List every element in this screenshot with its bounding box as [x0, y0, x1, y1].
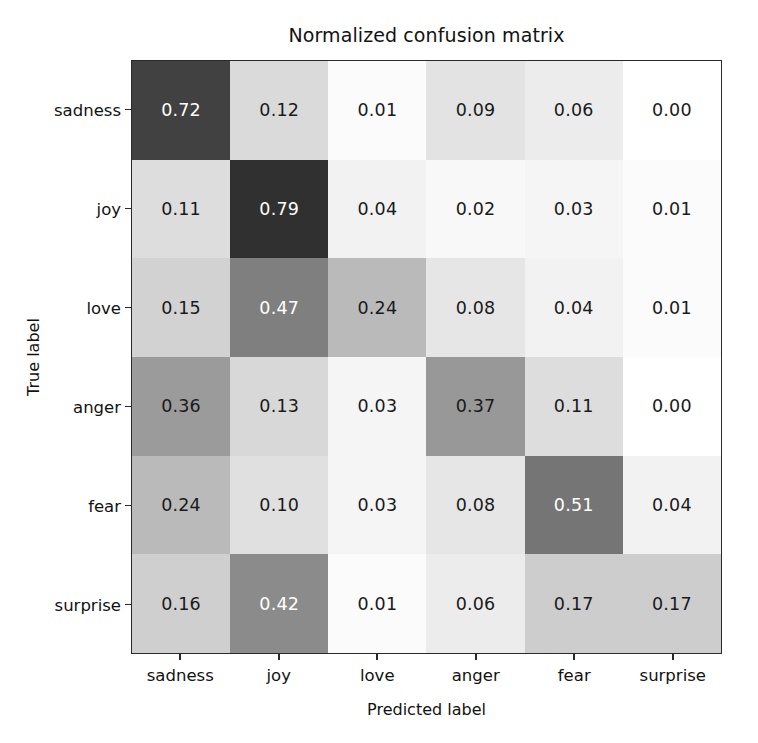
cell-value: 0.03	[358, 396, 398, 416]
cell-value: 0.02	[456, 199, 496, 219]
cell-value: 0.08	[456, 495, 496, 515]
x-tick-anger: anger	[427, 654, 526, 694]
x-tick-surprise: surprise	[624, 654, 723, 694]
cell-value: 0.04	[554, 298, 594, 318]
y-tick-label: surprise	[55, 595, 121, 614]
x-tick-mark	[179, 654, 181, 660]
cell-value: 0.42	[259, 594, 299, 614]
cell-value: 0.51	[554, 495, 594, 515]
x-tick-label: joy	[230, 666, 329, 685]
matrix-cell: 0.11	[525, 357, 623, 456]
cell-value: 0.16	[161, 594, 201, 614]
x-axis-label: Predicted label	[131, 700, 722, 719]
matrix-cell: 0.04	[623, 456, 721, 555]
x-tick-mark	[376, 654, 378, 660]
matrix-cell: 0.00	[623, 61, 721, 160]
plot-area: 0.720.120.010.090.060.000.110.790.040.02…	[131, 60, 722, 654]
cell-value: 0.01	[652, 298, 692, 318]
x-tick-sadness: sadness	[131, 654, 230, 694]
cell-value: 0.06	[456, 594, 496, 614]
cell-value: 0.03	[358, 495, 398, 515]
matrix-cell: 0.01	[623, 160, 721, 259]
matrix-cell: 0.06	[525, 61, 623, 160]
matrix-grid: 0.720.120.010.090.060.000.110.790.040.02…	[132, 61, 721, 653]
matrix-cell: 0.01	[328, 554, 426, 653]
matrix-cell: 0.17	[525, 554, 623, 653]
cell-value: 0.01	[358, 594, 398, 614]
cell-value: 0.11	[554, 396, 594, 416]
matrix-cell: 0.11	[132, 160, 230, 259]
matrix-cell: 0.03	[525, 160, 623, 259]
matrix-cell: 0.03	[328, 357, 426, 456]
matrix-cell: 0.03	[328, 456, 426, 555]
matrix-cell: 0.17	[623, 554, 721, 653]
matrix-cell: 0.12	[230, 61, 328, 160]
cell-value: 0.24	[161, 495, 201, 515]
cell-value: 0.03	[554, 199, 594, 219]
y-tick-anger: anger	[0, 357, 131, 456]
matrix-cell: 0.01	[623, 258, 721, 357]
x-tick-joy: joy	[230, 654, 329, 694]
x-tick-label: surprise	[624, 666, 723, 685]
cell-value: 0.79	[259, 199, 299, 219]
matrix-cell: 0.15	[132, 258, 230, 357]
matrix-cell: 0.37	[426, 357, 524, 456]
matrix-cell: 0.24	[132, 456, 230, 555]
cell-value: 0.06	[554, 100, 594, 120]
matrix-cell: 0.10	[230, 456, 328, 555]
y-tick-fear: fear	[0, 456, 131, 555]
matrix-cell: 0.47	[230, 258, 328, 357]
matrix-cell: 0.09	[426, 61, 524, 160]
cell-value: 0.11	[161, 199, 201, 219]
cell-value: 0.12	[259, 100, 299, 120]
y-tick-love: love	[0, 258, 131, 357]
matrix-cell: 0.06	[426, 554, 524, 653]
confusion-matrix-figure: Normalized confusion matrix True label s…	[0, 0, 758, 743]
x-tick-mark	[573, 654, 575, 660]
cell-value: 0.08	[456, 298, 496, 318]
cell-value: 0.10	[259, 495, 299, 515]
matrix-cell: 0.02	[426, 160, 524, 259]
x-tick-label: sadness	[131, 666, 230, 685]
cell-value: 0.47	[259, 298, 299, 318]
cell-value: 0.72	[161, 100, 201, 120]
matrix-cell: 0.24	[328, 258, 426, 357]
cell-value: 0.09	[456, 100, 496, 120]
page-title: Normalized confusion matrix	[131, 24, 722, 46]
y-tick-label: fear	[88, 496, 121, 515]
x-tick-mark	[278, 654, 280, 660]
x-tick-label: fear	[525, 666, 624, 685]
cell-value: 0.17	[652, 594, 692, 614]
matrix-cell: 0.00	[623, 357, 721, 456]
cell-value: 0.24	[358, 298, 398, 318]
matrix-cell: 0.72	[132, 61, 230, 160]
y-tick-label: sadness	[54, 100, 121, 119]
cell-value: 0.01	[652, 199, 692, 219]
matrix-cell: 0.79	[230, 160, 328, 259]
matrix-cell: 0.51	[525, 456, 623, 555]
y-tick-joy: joy	[0, 159, 131, 258]
matrix-cell: 0.42	[230, 554, 328, 653]
matrix-cell: 0.01	[328, 61, 426, 160]
y-tick-surprise: surprise	[0, 555, 131, 654]
matrix-cell: 0.04	[328, 160, 426, 259]
cell-value: 0.13	[259, 396, 299, 416]
cell-value: 0.04	[358, 199, 398, 219]
cell-value: 0.36	[161, 396, 201, 416]
x-tick-label: anger	[427, 666, 526, 685]
matrix-cell: 0.04	[525, 258, 623, 357]
x-tick-love: love	[328, 654, 427, 694]
matrix-cell: 0.13	[230, 357, 328, 456]
cell-value: 0.04	[652, 495, 692, 515]
cell-value: 0.15	[161, 298, 201, 318]
cell-value: 0.00	[652, 396, 692, 416]
x-tick-fear: fear	[525, 654, 624, 694]
y-tick-label: joy	[97, 199, 121, 218]
cell-value: 0.01	[358, 100, 398, 120]
matrix-cell: 0.08	[426, 456, 524, 555]
x-tick-mark	[672, 654, 674, 660]
x-tick-label: love	[328, 666, 427, 685]
matrix-cell: 0.16	[132, 554, 230, 653]
x-tick-mark	[475, 654, 477, 660]
y-tick-label: love	[86, 298, 121, 317]
